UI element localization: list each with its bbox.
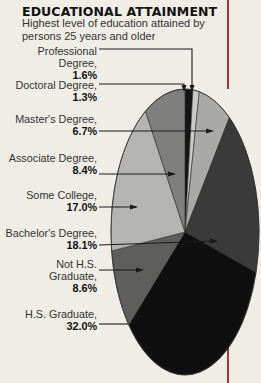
- pie-slices: [111, 89, 259, 375]
- label-doctoral: Doctoral Degree, 1.3%: [15, 79, 97, 103]
- label-associate: Associate Degree, 8.4%: [9, 152, 97, 176]
- callout-line: [99, 84, 184, 90]
- label-not-hs: Not H.S.Graduate, 8.6%: [49, 258, 97, 294]
- label-bachelors: Bachelor's Degree, 18.1%: [6, 227, 97, 251]
- label-hs-graduate: H.S. Graduate, 32.0%: [25, 308, 97, 332]
- label-some-college: Some College, 17.0%: [26, 189, 97, 213]
- label-professional: ProfessionalDegree, 1.6%: [38, 45, 97, 81]
- label-masters: Master's Degree, 6.7%: [15, 113, 97, 137]
